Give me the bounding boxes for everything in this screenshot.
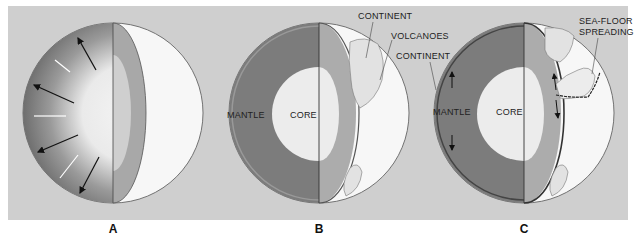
label-spreading: SPREADING bbox=[579, 27, 634, 37]
label-continent-2: CONTINENT bbox=[396, 51, 451, 61]
label-mantle: MANTLE bbox=[433, 107, 471, 117]
caption-c: C bbox=[514, 222, 534, 236]
sphere-b: MANTLE CORE CONTINENT VOLCANOES CONTINEN… bbox=[227, 11, 451, 203]
label-continent: CONTINENT bbox=[358, 11, 413, 21]
caption-b: B bbox=[309, 222, 329, 236]
label-core: CORE bbox=[290, 110, 317, 120]
label-mantle: MANTLE bbox=[227, 110, 265, 120]
earth-diagrams: MANTLE CORE CONTINENT VOLCANOES CONTINEN… bbox=[0, 0, 636, 240]
sphere-c: MANTLE CORE SEA-FLOOR SPREADING bbox=[433, 16, 634, 203]
caption-a: A bbox=[103, 222, 123, 236]
label-sea-floor: SEA-FLOOR bbox=[579, 16, 633, 26]
label-volcanoes: VOLCANOES bbox=[391, 31, 449, 41]
sphere-a bbox=[23, 23, 203, 203]
label-core: CORE bbox=[496, 107, 523, 117]
